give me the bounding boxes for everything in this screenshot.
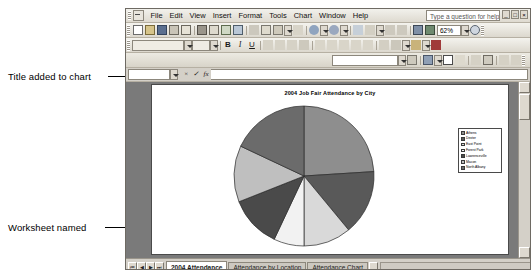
minimize-button[interactable]: _	[502, 10, 510, 19]
legend-entry[interactable]: Lawrenceville	[461, 154, 499, 159]
chart-sheet[interactable]: 2004 Job Fair Attendance by City AthensD…	[151, 84, 509, 255]
sort-desc-icon[interactable]	[396, 24, 408, 36]
redo-icon[interactable]	[328, 24, 340, 36]
currency-icon[interactable]	[314, 39, 326, 51]
close-button[interactable]: ×	[520, 10, 528, 19]
hyperlink-icon[interactable]	[352, 24, 364, 36]
print-icon[interactable]	[196, 24, 208, 36]
menu-window[interactable]: Window	[316, 10, 350, 22]
pie-slice[interactable]	[304, 106, 374, 176]
enter-formula-icon[interactable]: ✓	[191, 69, 201, 80]
percent-icon[interactable]	[326, 39, 338, 51]
vertical-scrollbar[interactable]	[518, 82, 530, 258]
copy-icon[interactable]	[260, 24, 272, 36]
workbook-control-menu-icon[interactable]	[133, 10, 144, 21]
menu-format[interactable]: Format	[235, 10, 266, 22]
indent-icon[interactable]	[378, 39, 390, 51]
font-size-dropdown[interactable]	[210, 40, 218, 51]
font-color-icon[interactable]	[430, 39, 442, 51]
legend-entry[interactable]: Macon	[461, 159, 499, 164]
ask-a-question-input[interactable]: Type a question for help	[426, 10, 500, 21]
name-box-dropdown[interactable]	[170, 69, 178, 80]
mail-icon[interactable]	[180, 24, 192, 36]
chart-type-icon[interactable]	[422, 54, 434, 66]
undo-dropdown[interactable]	[320, 25, 328, 36]
menu-help[interactable]: Help	[349, 10, 371, 22]
fill-color-icon[interactable]	[410, 39, 422, 51]
merge-center-icon[interactable]	[298, 39, 310, 51]
fill-color-dropdown[interactable]	[422, 40, 430, 51]
zoom-dropdown[interactable]	[461, 25, 469, 36]
new-icon[interactable]	[132, 24, 144, 36]
chart-objects-dropdown[interactable]	[398, 55, 406, 66]
italic-button[interactable]: I	[234, 39, 246, 51]
menu-grip-handle[interactable]	[128, 11, 131, 20]
standard-toolbar-grip[interactable]	[127, 25, 130, 36]
font-size-input[interactable]	[192, 40, 210, 51]
open-icon[interactable]	[144, 24, 156, 36]
legend-entry[interactable]: East Point	[461, 142, 499, 147]
menu-file[interactable]: File	[147, 10, 166, 22]
by-row-icon[interactable]	[470, 54, 482, 66]
tab-split-handle[interactable]	[369, 262, 378, 270]
save-icon[interactable]	[156, 24, 168, 36]
scroll-up-button[interactable]	[519, 82, 530, 93]
borders-dropdown[interactable]	[402, 40, 410, 51]
autosum-icon[interactable]	[364, 24, 376, 36]
menu-insert[interactable]: Insert	[209, 10, 235, 22]
pie-chart-plot-area[interactable]	[158, 101, 450, 251]
underline-button[interactable]: U	[246, 39, 258, 51]
spelling-icon[interactable]	[220, 24, 232, 36]
scroll-down-button[interactable]	[519, 247, 530, 258]
chart-legend[interactable]: AthensDexterEast PointForest ParkLawrenc…	[458, 128, 502, 173]
paste-icon[interactable]	[272, 24, 284, 36]
cut-icon[interactable]	[248, 24, 260, 36]
formatting-toolbar-grip[interactable]	[127, 40, 130, 51]
sheet-tab-attendance-by-location[interactable]: Attendance by Location	[228, 262, 306, 270]
drawing-icon[interactable]	[424, 24, 436, 36]
legend-entry[interactable]: Athens	[461, 131, 499, 136]
undo-icon[interactable]	[308, 24, 320, 36]
nav-next-sheet-icon[interactable]: ▶	[146, 262, 155, 271]
legend-entry[interactable]: North Albany	[461, 165, 499, 170]
permission-icon[interactable]	[168, 24, 180, 36]
angle-ccw-icon[interactable]	[498, 54, 510, 66]
chart-toolbar-grip[interactable]	[522, 55, 525, 66]
restore-button[interactable]: □	[511, 10, 519, 19]
autosum-dropdown[interactable]	[376, 25, 384, 36]
zoom-input[interactable]: 62%	[437, 25, 461, 36]
borders-icon[interactable]	[390, 39, 402, 51]
legend-icon[interactable]	[442, 54, 454, 66]
legend-entry[interactable]: Dexter	[461, 136, 499, 141]
data-table-icon[interactable]	[454, 54, 466, 66]
menu-chart[interactable]: Chart	[290, 10, 315, 22]
font-name-input[interactable]	[132, 40, 184, 51]
chart-wizard-icon[interactable]	[412, 24, 424, 36]
nav-first-sheet-icon[interactable]: ⏮	[128, 262, 137, 271]
chart-objects-select[interactable]	[332, 55, 398, 66]
menu-tools[interactable]: Tools	[266, 10, 291, 22]
bold-button[interactable]: B	[222, 39, 234, 51]
horizontal-scrollbar[interactable]	[380, 262, 530, 270]
chart-type-dropdown[interactable]	[434, 55, 442, 66]
chart-title[interactable]: 2004 Job Fair Attendance by City	[152, 90, 508, 96]
align-left-icon[interactable]	[262, 39, 274, 51]
decrease-decimal-icon[interactable]	[362, 39, 374, 51]
menu-view[interactable]: View	[186, 10, 209, 22]
nav-last-sheet-icon[interactable]: ⏭	[155, 262, 164, 271]
legend-entry[interactable]: Forest Park	[461, 148, 499, 153]
sheet-tab-attendance-chart[interactable]: Attendance Chart	[307, 262, 368, 270]
angle-cw-icon[interactable]	[510, 54, 522, 66]
insert-function-icon[interactable]: fx	[201, 69, 211, 80]
help-icon[interactable]	[469, 24, 481, 36]
align-center-icon[interactable]	[274, 39, 286, 51]
nav-prev-sheet-icon[interactable]: ◀	[137, 262, 146, 271]
paste-options-dropdown[interactable]	[284, 25, 292, 36]
redo-dropdown[interactable]	[340, 25, 348, 36]
formula-input[interactable]	[211, 69, 528, 80]
comma-icon[interactable]	[338, 39, 350, 51]
format-selection-icon[interactable]	[406, 54, 418, 66]
increase-decimal-icon[interactable]	[350, 39, 362, 51]
align-right-icon[interactable]	[286, 39, 298, 51]
by-column-icon[interactable]	[482, 54, 494, 66]
